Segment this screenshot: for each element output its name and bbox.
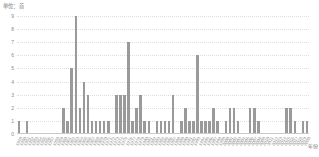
y-axis-tick-labels: 9876543210 — [0, 0, 17, 157]
x-axis-title: 年份 — [308, 142, 318, 149]
bar — [75, 16, 78, 134]
bar — [123, 95, 126, 134]
y-axis-tick: 8 — [11, 27, 14, 32]
bar — [70, 68, 73, 134]
y-axis-tick: 7 — [11, 40, 14, 45]
bar — [233, 108, 236, 134]
y-axis-tick: 1 — [11, 118, 14, 123]
bar — [172, 95, 175, 134]
y-axis-tick: 9 — [11, 14, 14, 19]
bar-series — [17, 16, 309, 134]
bar — [119, 95, 122, 134]
plot-area — [17, 16, 309, 134]
bar — [229, 108, 232, 134]
y-axis-tick: 4 — [11, 79, 14, 84]
bar — [127, 42, 130, 134]
bar — [62, 108, 65, 134]
y-axis-tick: 5 — [11, 66, 14, 71]
bar — [139, 95, 142, 134]
bar — [253, 108, 256, 134]
bar — [87, 95, 90, 134]
bar — [184, 108, 187, 134]
y-axis-tick: 0 — [11, 132, 14, 137]
bar — [79, 108, 82, 134]
bar — [115, 95, 118, 134]
bar — [289, 108, 292, 134]
y-axis-tick: 2 — [11, 105, 14, 110]
y-axis-tick: 3 — [11, 92, 14, 97]
bar — [135, 108, 138, 134]
bar — [212, 108, 215, 134]
bar — [285, 108, 288, 134]
bar — [83, 82, 86, 134]
bar — [196, 55, 199, 134]
bar — [249, 108, 252, 134]
bar-chart: 单位：首 9876543210 194919501951195219531954… — [0, 0, 319, 157]
y-axis-tick: 6 — [11, 53, 14, 58]
x-axis-tick-labels: 1949195019511952195319541955195619571958… — [17, 134, 309, 157]
